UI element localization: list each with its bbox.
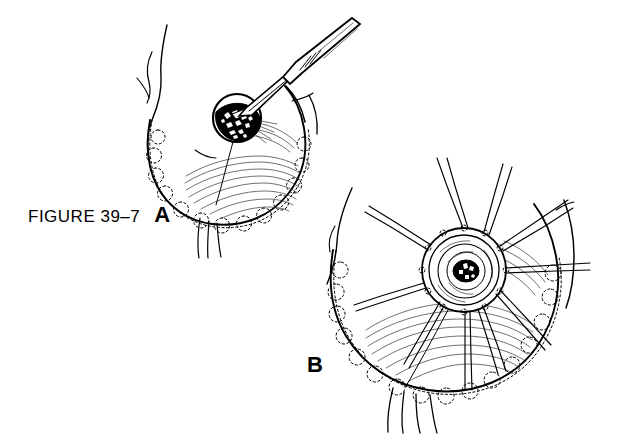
panel-a-body-contour-lines [137, 25, 167, 158]
panel-a-label: A [154, 202, 170, 228]
panel-b-illustration [327, 158, 590, 433]
suture-strand [354, 283, 426, 311]
suture-strand [437, 158, 468, 228]
figure-number: FIGURE 39–7 [28, 207, 140, 227]
panel-b-areola [419, 225, 509, 315]
panel-a-upper-fold [195, 150, 216, 158]
panel-a-incision-line [216, 142, 233, 205]
suture-strand [465, 312, 472, 390]
panel-b-chest-lines [556, 200, 574, 308]
panel-a-scalpel [239, 18, 360, 116]
suture-strand [365, 206, 431, 250]
panel-b-nipple-center [453, 260, 479, 282]
panel-a-illustration [137, 18, 360, 258]
figure-caption: FIGURE 39–7 A [28, 202, 170, 228]
suture-strand [484, 164, 512, 235]
figure-root: FIGURE 39–7 A B [0, 0, 633, 438]
panel-b-label: B [307, 352, 323, 378]
suture-strand [478, 306, 506, 374]
panel-b-incision-line [406, 310, 448, 386]
